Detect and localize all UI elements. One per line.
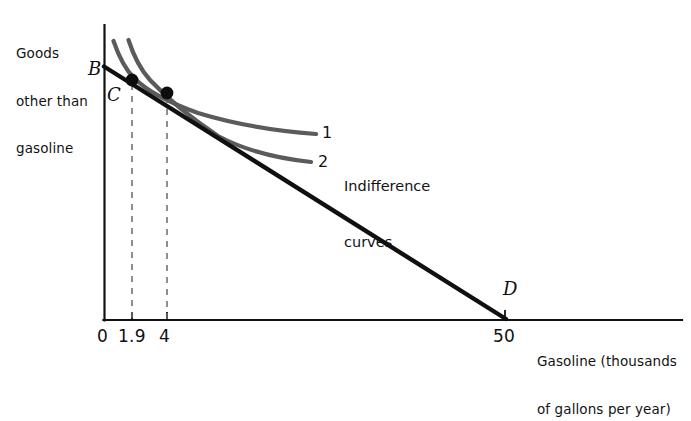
- marker-point-C: [126, 74, 139, 87]
- curve-label-1: 1: [322, 124, 332, 143]
- x-tick-label-1-9: 1.9: [118, 326, 146, 346]
- x-axis-title-line-1: Gasoline (thousands: [537, 354, 677, 370]
- budget-line-BD: [104, 67, 506, 320]
- legend-line-1: Indifference: [344, 177, 430, 196]
- point-label-b: B: [88, 58, 101, 79]
- x-axis-title-line-2: of gallons per year): [537, 402, 677, 418]
- point-label-c: C: [107, 84, 121, 105]
- x-tick-label-4: 4: [159, 326, 170, 346]
- x-tick-label-0: 0: [97, 326, 108, 346]
- y-axis-title-line-3: gasoline: [16, 141, 88, 157]
- indifference-curve-1: [114, 41, 317, 134]
- x-axis-title: Gasoline (thousands of gallons per year): [537, 322, 677, 421]
- y-axis-title-line-2: other than: [16, 94, 88, 110]
- x-tick-label-50: 50: [493, 326, 515, 346]
- y-axis-title: Goods other than gasoline: [16, 14, 88, 189]
- legend-indifference-curves: Indifference curves: [344, 140, 430, 288]
- marker-point-4: [161, 87, 174, 100]
- legend-line-2: curves: [344, 233, 430, 252]
- curve-label-2: 2: [318, 153, 328, 172]
- y-axis-title-line-1: Goods: [16, 46, 88, 62]
- point-label-d: D: [503, 278, 517, 299]
